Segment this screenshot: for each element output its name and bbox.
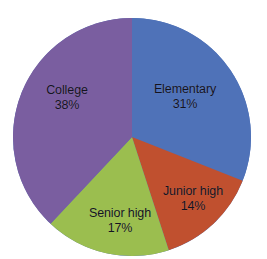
pie-slice-label-value: 38% xyxy=(46,97,88,112)
pie-slice-label-name: Elementary xyxy=(154,82,216,97)
pie-slice-label-name: College xyxy=(46,83,88,98)
pie-slice-label-name: Junior high xyxy=(163,184,223,199)
pie-slice-label-college: College 38% xyxy=(46,83,88,112)
pie-slice-label-senior-high: Senior high 17% xyxy=(89,206,151,235)
pie-slice-label-value: 14% xyxy=(163,198,223,213)
pie-chart: Elementary 31% Junior high 14% Senior hi… xyxy=(0,0,267,259)
pie-slice-label-junior-high: Junior high 14% xyxy=(163,184,223,213)
pie-slice-label-value: 31% xyxy=(154,96,216,111)
pie-slice-label-name: Senior high xyxy=(89,206,151,221)
pie-slice-label-elementary: Elementary 31% xyxy=(154,82,216,111)
pie-slice-label-value: 17% xyxy=(89,220,151,235)
